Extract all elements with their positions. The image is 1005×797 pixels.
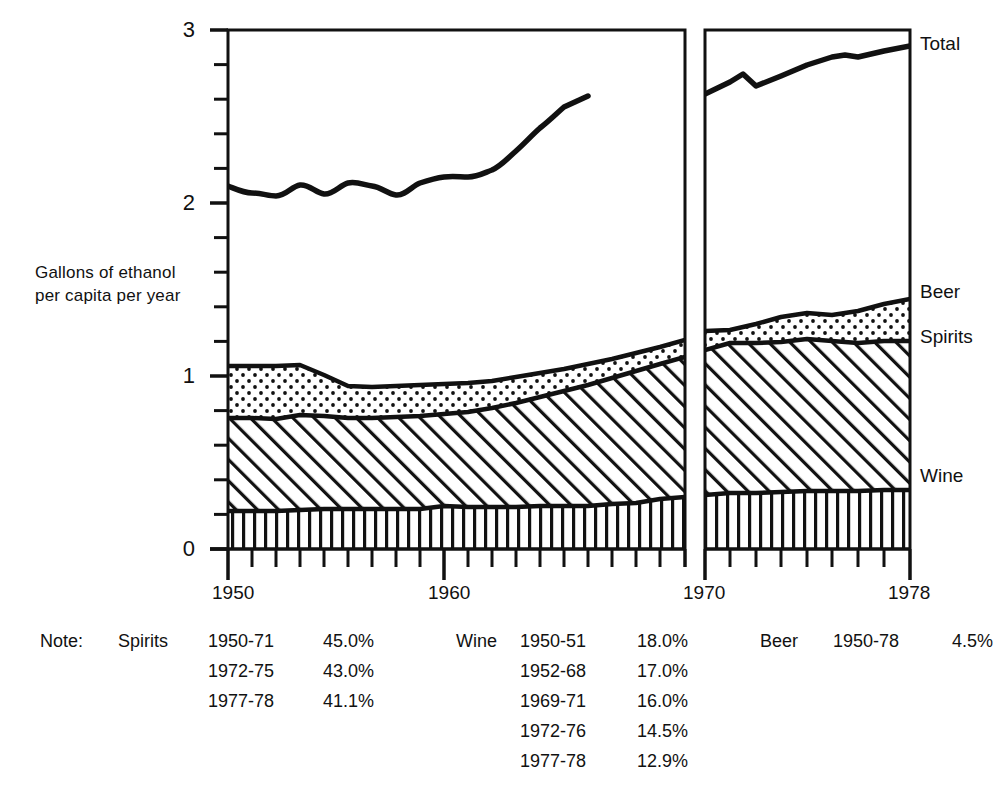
panel-1970-1978-x-minor-ticks xyxy=(730,549,884,567)
y-axis-title-line2: per capita per year xyxy=(35,285,181,306)
series-label-total: Total xyxy=(920,34,960,53)
note-block: Note: Spirits 1950-71 45.0% 1972-75 43.0… xyxy=(0,626,1005,766)
line-total-left xyxy=(228,96,588,196)
series-label-wine: Wine xyxy=(920,466,963,485)
note-spirits-percent-0: 45.0% xyxy=(323,626,374,656)
panel-1950-1969 xyxy=(210,30,685,580)
panel-1950-1969-y-major-ticks xyxy=(210,30,228,549)
note-wine-percent-4: 12.9% xyxy=(637,746,688,776)
xtick-label-1970: 1970 xyxy=(683,583,725,602)
note-spirits-period-0: 1950-71 xyxy=(208,626,274,656)
note-wine-period-4: 1977-78 xyxy=(520,746,586,776)
note-beer-percent-0: 4.5% xyxy=(952,626,993,656)
ytick-label-0: 0 xyxy=(155,538,195,560)
cut-off-caption-text xyxy=(34,784,39,797)
note-wine-percent-0: 18.0% xyxy=(637,626,688,656)
note-spirits-percent-2: 41.1% xyxy=(323,686,374,716)
note-group-spirits-name: Spirits xyxy=(118,626,168,656)
note-wine-period-0: 1950-51 xyxy=(520,626,586,656)
panel-1950-1969-y-minor-ticks xyxy=(214,65,228,515)
ytick-label-3: 3 xyxy=(155,19,195,41)
series-label-beer: Beer xyxy=(920,282,960,301)
panel-1950-1969-x-major-ticks xyxy=(228,549,685,580)
note-wine-percent-3: 14.5% xyxy=(637,716,688,746)
panel-1970-1978 xyxy=(705,30,910,580)
series-label-spirits: Spirits xyxy=(920,327,973,346)
note-label: Note: xyxy=(40,626,83,656)
figure-page: 3 2 1 0 Gallons of ethanol per capita pe… xyxy=(0,0,1005,797)
area-spirits-right xyxy=(705,339,910,495)
note-wine-period-3: 1972-76 xyxy=(520,716,586,746)
note-wine-percent-2: 16.0% xyxy=(637,686,688,716)
panel-1950-1969-bands xyxy=(228,96,685,549)
note-spirits-period-1: 1972-75 xyxy=(208,656,274,686)
note-beer-period-0: 1950-78 xyxy=(833,626,899,656)
y-axis-title-line1: Gallons of ethanol xyxy=(35,262,176,283)
panel-1970-1978-bands xyxy=(705,46,910,549)
note-spirits-percent-1: 43.0% xyxy=(323,656,374,686)
note-group-beer-name: Beer xyxy=(760,626,798,656)
xtick-label-1960: 1960 xyxy=(428,583,470,602)
note-wine-period-1: 1952-68 xyxy=(520,656,586,686)
ytick-label-2: 2 xyxy=(155,192,195,214)
note-wine-period-2: 1969-71 xyxy=(520,686,586,716)
line-total-right xyxy=(705,46,910,94)
chart-figure: 3 2 1 0 Gallons of ethanol per capita pe… xyxy=(0,0,1005,600)
note-group-wine-name: Wine xyxy=(456,626,497,656)
area-wine-right xyxy=(705,490,910,549)
xtick-label-1950: 1950 xyxy=(212,583,254,602)
note-wine-percent-1: 17.0% xyxy=(637,656,688,686)
ytick-label-1: 1 xyxy=(155,365,195,387)
xtick-label-1978: 1978 xyxy=(888,583,930,602)
cut-off-caption xyxy=(0,784,1005,797)
note-spirits-period-2: 1977-78 xyxy=(208,686,274,716)
panel-1950-1969-x-minor-ticks xyxy=(252,549,660,567)
